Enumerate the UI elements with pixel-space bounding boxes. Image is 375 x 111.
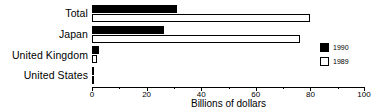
bar-united-kingdom-1989 — [92, 55, 97, 63]
legend-swatch-1990 — [320, 43, 329, 52]
bar-japan-1990 — [92, 26, 164, 34]
legend-label-1989: 1989 — [333, 58, 349, 65]
bar-total-1990 — [92, 5, 177, 13]
x-axis-title: Billions of dollars — [92, 99, 365, 109]
x-axis-tick-90 — [338, 87, 339, 89]
legend: 1990 1989 — [320, 41, 349, 69]
category-label-total: Total — [0, 8, 88, 19]
bar-total-1989 — [92, 14, 310, 22]
x-axis-tick-10 — [119, 87, 120, 89]
x-axis-tick-label-80: 80 — [306, 91, 315, 99]
x-axis-tick-50 — [229, 87, 230, 89]
bar-japan-1989 — [92, 35, 300, 43]
legend-item-1989: 1989 — [320, 55, 349, 67]
x-axis-tick-label-0: 0 — [90, 91, 94, 99]
legend-label-1990: 1990 — [333, 44, 349, 51]
legend-item-1990: 1990 — [320, 41, 349, 53]
bar-united-kingdom-1990 — [92, 46, 99, 54]
x-axis-tick-70 — [283, 87, 284, 89]
category-label-united-states: United States — [0, 70, 88, 81]
category-label-united-kingdom: United Kingdom — [0, 50, 88, 61]
x-axis-tick-label-20: 20 — [142, 91, 151, 99]
bar-united-states-1990 — [92, 67, 94, 75]
bar-chart: Total Japan United Kingdom United States — [0, 0, 375, 111]
bar-united-states-1989 — [92, 76, 94, 84]
category-label-japan: Japan — [0, 29, 88, 40]
legend-swatch-1989 — [320, 57, 329, 66]
x-axis-tick-30 — [174, 87, 175, 89]
x-axis-tick-label-100: 100 — [357, 91, 370, 99]
